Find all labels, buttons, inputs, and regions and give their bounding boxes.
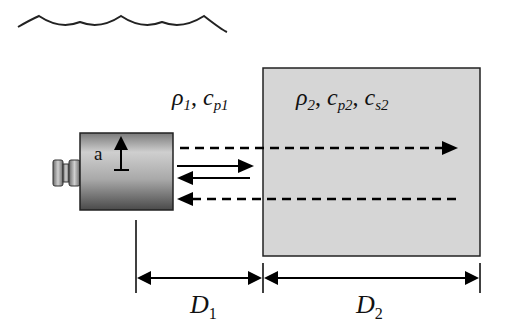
rho2-subscript: 2: [308, 97, 315, 113]
separator: ,: [315, 84, 321, 110]
d1-symbol: D: [190, 290, 209, 319]
transducer-connector-icon: [53, 160, 80, 186]
cp2-symbol: c: [327, 84, 338, 110]
d2-symbol: D: [356, 290, 375, 319]
cs2-subscript: s2: [375, 97, 388, 113]
cp2-subscript: p2: [338, 97, 353, 113]
medium1-label: ρ1, cp1: [172, 84, 229, 114]
separator: ,: [353, 84, 359, 110]
diagram-canvas: [0, 0, 508, 330]
aperture-label: a: [94, 143, 102, 165]
solid-echo-arrow-icon: [177, 171, 250, 185]
rho2-symbol: ρ: [296, 84, 308, 110]
separator: ,: [191, 84, 197, 110]
medium2-label: ρ2, cp2, cs2: [296, 84, 388, 114]
cp1-symbol: c: [203, 84, 214, 110]
cp1-subscript: p1: [214, 97, 229, 113]
solid-transmit-arrow-icon: [177, 159, 254, 173]
dimension-d1-label: D1: [190, 290, 217, 323]
d2-subscript: 2: [375, 305, 383, 322]
rho1-symbol: ρ: [172, 84, 184, 110]
cs2-symbol: c: [365, 84, 376, 110]
dimension-d2-label: D2: [356, 290, 383, 323]
rho1-subscript: 1: [184, 97, 191, 113]
water-surface-icon: [18, 15, 228, 32]
d1-subscript: 1: [209, 305, 217, 322]
